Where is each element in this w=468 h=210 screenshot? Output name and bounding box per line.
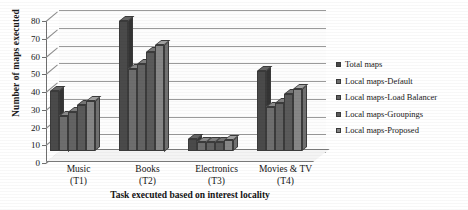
y-tick-label: 50 — [24, 70, 40, 79]
bar-front-face — [146, 52, 155, 151]
x-axis-label: Movies & TV(T4) — [241, 163, 331, 187]
x-axis-title: Task executed based on interest locality — [40, 190, 340, 200]
legend-item-label: Local maps-Default — [345, 77, 413, 86]
bar — [206, 142, 215, 151]
bar-group — [188, 9, 233, 151]
bar-front-face — [293, 89, 302, 151]
bar-chart: Number of maps executed 0102030405060708… — [0, 0, 468, 210]
bar-side-face — [302, 85, 307, 151]
bar — [59, 116, 68, 152]
bar — [293, 89, 302, 151]
legend-item[interactable]: Local maps-Load Balancer — [336, 93, 468, 102]
y-tick-label: 30 — [24, 106, 40, 115]
bar — [197, 142, 206, 151]
bar — [275, 103, 284, 151]
y-tick-label: 20 — [24, 124, 40, 133]
bar — [215, 142, 224, 151]
legend-swatch-icon — [336, 128, 341, 133]
bar — [86, 101, 95, 151]
bar — [188, 139, 197, 151]
bar-front-face — [119, 21, 128, 151]
y-tick-label: 40 — [24, 88, 40, 97]
bar — [50, 91, 59, 151]
plot-area: 01020304050607080 — [46, 10, 326, 162]
chart-legend: Total mapsLocal maps-DefaultLocal maps-L… — [336, 60, 468, 143]
y-tick-label: 10 — [24, 141, 40, 150]
bar-front-face — [86, 101, 95, 151]
legend-swatch-icon — [336, 112, 341, 117]
legend-item-label: Total maps — [345, 60, 382, 69]
bar — [224, 140, 233, 151]
bar-group — [119, 9, 164, 151]
bar — [284, 94, 293, 151]
bar — [137, 64, 146, 151]
legend-item-label: Local maps-Groupings — [345, 110, 423, 119]
bar-front-face — [275, 103, 284, 151]
bar — [77, 105, 86, 151]
legend-item[interactable]: Local maps-Default — [336, 77, 468, 86]
bar — [68, 112, 77, 151]
bar-front-face — [155, 45, 164, 152]
y-tick-label: 80 — [24, 17, 40, 26]
bar — [119, 21, 128, 151]
bar-side-face — [164, 40, 169, 151]
y-axis-title: Number of maps executed — [11, 0, 21, 133]
bar-front-face — [188, 139, 197, 151]
bar — [155, 45, 164, 152]
bar-front-face — [50, 91, 59, 151]
legend-item[interactable]: Local maps-Proposed — [336, 126, 468, 135]
legend-item[interactable]: Total maps — [336, 60, 468, 69]
legend-item[interactable]: Local maps-Groupings — [336, 110, 468, 119]
bar-front-face — [59, 116, 68, 152]
bar — [146, 52, 155, 151]
bar-front-face — [137, 64, 146, 151]
y-tick-label: 60 — [24, 53, 40, 62]
y-tick-label: 70 — [24, 35, 40, 44]
bar-front-face — [68, 112, 77, 151]
bar-front-face — [266, 107, 275, 151]
bar-front-face — [206, 142, 215, 151]
bar-side-face — [95, 97, 100, 151]
bar-front-face — [284, 94, 293, 151]
legend-item-label: Local maps-Load Balancer — [345, 93, 437, 102]
bar-front-face — [197, 142, 206, 151]
x-axis-label-name: Movies & TV — [241, 163, 331, 175]
bar-front-face — [215, 142, 224, 151]
bar-series-container — [46, 9, 326, 151]
legend-swatch-icon — [336, 79, 341, 84]
legend-item-label: Local maps-Proposed — [345, 126, 419, 135]
bar-group — [50, 9, 95, 151]
bar-group — [257, 9, 302, 151]
legend-swatch-icon — [336, 62, 341, 67]
legend-swatch-icon — [336, 95, 341, 100]
bar-front-face — [257, 71, 266, 151]
bar — [128, 69, 137, 151]
bar-front-face — [128, 69, 137, 151]
x-axis-label-code: (T4) — [241, 175, 331, 187]
bar-front-face — [224, 140, 233, 151]
bar-front-face — [77, 105, 86, 151]
bar — [266, 107, 275, 151]
bar — [257, 71, 266, 151]
